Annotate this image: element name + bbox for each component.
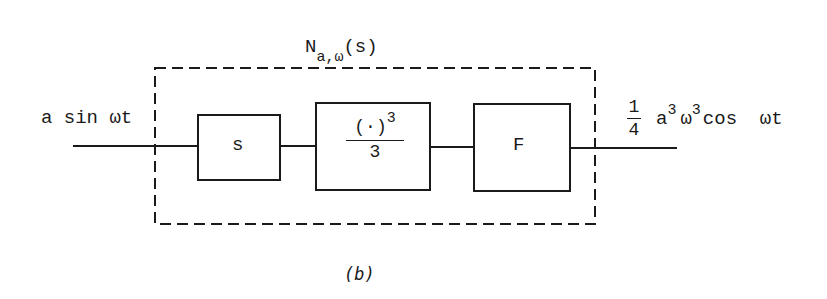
block-cube-fraction: (·)3 3 xyxy=(346,117,404,162)
input-label: a sin ωt xyxy=(41,107,132,129)
system-title: Na,ω(s) xyxy=(305,36,378,58)
block-s-label: s xyxy=(232,134,243,156)
title-argument: (s) xyxy=(343,36,377,58)
output-a: a xyxy=(656,108,667,130)
block-f-label: F xyxy=(513,134,524,156)
title-subscript: a,ω xyxy=(316,49,343,66)
cube-denominator: 3 xyxy=(346,142,404,162)
cube-exponent: 3 xyxy=(387,110,396,127)
cube-numerator: (·)3 xyxy=(346,117,404,139)
coef-denominator: 4 xyxy=(627,120,641,140)
figure-caption: (b) xyxy=(344,264,375,284)
fraction-bar xyxy=(346,140,404,141)
output-cos-term: cos ωt xyxy=(703,108,783,130)
output-label: a3ω3cos ωt xyxy=(656,108,783,130)
title-base: N xyxy=(305,36,316,58)
coef-numerator: 1 xyxy=(627,97,641,117)
block-diagram-canvas xyxy=(0,0,827,299)
cube-numerator-base: (·) xyxy=(354,117,386,137)
coef-fraction-bar xyxy=(627,118,641,119)
output-omega-exponent: 3 xyxy=(692,102,701,119)
output-omega: ω xyxy=(680,108,691,130)
output-a-exponent: 3 xyxy=(667,102,676,119)
output-coefficient: 1 4 xyxy=(627,97,641,140)
